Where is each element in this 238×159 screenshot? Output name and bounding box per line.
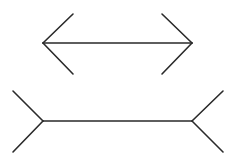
top-fin-3 [162,43,192,74]
bottom-fin-3 [192,121,223,152]
bottom-fin-0 [13,91,43,121]
top-fin-1 [43,43,73,74]
muller-lyer-figure [0,0,238,159]
top-arrow-line [43,14,192,74]
bottom-forked-line [13,91,223,152]
bottom-fin-2 [192,91,223,121]
top-fin-2 [162,14,192,43]
top-fin-0 [43,14,73,43]
bottom-fin-1 [13,121,43,152]
